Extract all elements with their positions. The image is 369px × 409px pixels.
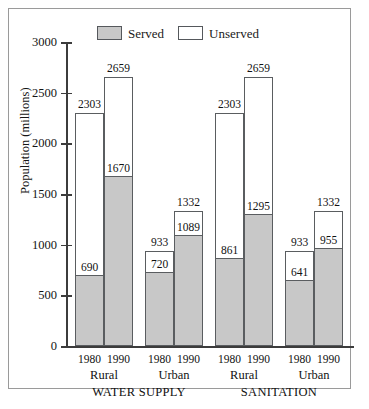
y-tick-mark <box>61 245 72 247</box>
bar-served-segment <box>145 272 174 346</box>
y-tick-mark <box>61 93 72 95</box>
plot-area: 050010001500200025003000 230369026591670… <box>66 42 354 346</box>
served-swatch-icon <box>97 26 122 40</box>
bar-total <box>75 113 104 346</box>
bar-served-segment <box>285 280 314 346</box>
y-tick-mark <box>61 346 72 348</box>
y-tick-label: 1000 <box>32 237 57 252</box>
x-subgroup-label: Urban <box>285 368 343 383</box>
bar-total <box>104 77 133 346</box>
x-axis-line <box>66 346 354 348</box>
bar-total-label: 1332 <box>308 197 349 209</box>
y-tick-mark <box>61 42 72 44</box>
x-subgroup-label: Rural <box>75 368 133 383</box>
legend-label-unserved: Unserved <box>209 27 259 40</box>
bar-total-label: 2659 <box>98 63 139 75</box>
x-subgroup-label: Urban <box>145 368 203 383</box>
y-axis-title: Population (millions) <box>18 87 33 194</box>
bar-served-segment <box>215 258 244 346</box>
bar-served-segment <box>314 248 343 346</box>
y-tick-label: 0 <box>51 339 57 354</box>
bar-total-label: 2659 <box>238 63 279 75</box>
bar-served-segment <box>75 275 104 346</box>
legend-entry-unserved: Unserved <box>178 26 259 40</box>
x-tick-label-year: 1990 <box>308 353 349 365</box>
bar-total <box>215 113 244 346</box>
y-tick-mark <box>61 143 72 145</box>
bar-served-segment <box>104 176 133 346</box>
unserved-swatch-icon <box>178 26 203 40</box>
bar-served-label: 1670 <box>98 163 139 175</box>
y-tick-label: 2500 <box>32 85 57 100</box>
legend-entry-served: Served <box>97 26 164 40</box>
y-tick-label: 500 <box>38 288 57 303</box>
bar-served-label: 955 <box>308 235 349 247</box>
bar-total <box>314 211 343 346</box>
y-tick-mark <box>61 295 72 297</box>
x-subgroup-label: Rural <box>215 368 273 383</box>
legend-label-served: Served <box>128 27 164 40</box>
bar-total-label: 1332 <box>168 197 209 209</box>
y-tick-label: 1500 <box>32 187 57 202</box>
x-tick-label-year: 1990 <box>238 353 279 365</box>
x-group-label: SANITATION <box>215 385 343 400</box>
bar-served-label: 1295 <box>238 201 279 213</box>
y-tick-label: 2000 <box>32 136 57 151</box>
chart-figure: Served Unserved Population (millions) 05… <box>0 0 369 409</box>
x-tick-label-year: 1990 <box>168 353 209 365</box>
bar-served-segment <box>174 235 203 346</box>
x-group-label: WATER SUPPLY <box>75 385 203 400</box>
y-tick-label: 3000 <box>32 35 57 50</box>
x-tick-label-year: 1990 <box>98 353 139 365</box>
chart-legend: Served Unserved <box>97 26 259 40</box>
bar-served-label: 1089 <box>168 222 209 234</box>
bar-served-segment <box>244 214 273 346</box>
y-tick-mark <box>61 194 72 196</box>
figure-frame: Served Unserved Population (millions) 05… <box>8 8 351 389</box>
